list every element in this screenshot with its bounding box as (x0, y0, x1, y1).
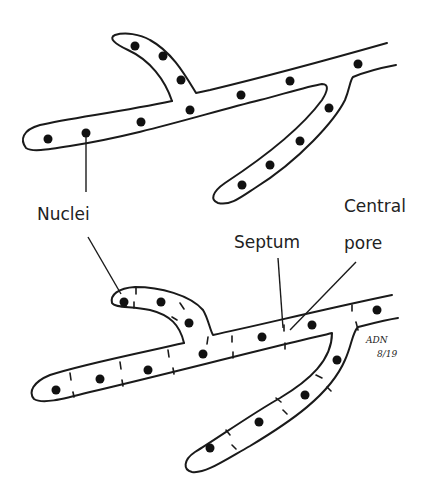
nuclei-label: Nuclei (37, 204, 90, 224)
pore-label: pore (344, 233, 382, 253)
central-pore-leader (290, 262, 356, 330)
septum-leader (278, 258, 283, 328)
central-label: Central (344, 196, 406, 216)
bottom-nuclei (52, 298, 382, 453)
septum-label: Septum (234, 232, 300, 252)
top-hypha-outline-left (23, 65, 396, 204)
bottom-hypha-outline-upper (112, 287, 392, 343)
signature: ADN 8/19 (365, 335, 397, 359)
nuclei-leader-bottom (88, 237, 121, 294)
bottom-hypha-outline-lower (32, 318, 398, 472)
coenocytic-hypha (23, 34, 396, 204)
septate-hypha (32, 237, 398, 472)
signature-initials: ADN (365, 335, 389, 345)
top-hypha-outline-upper (112, 34, 387, 101)
signature-date: 8/19 (377, 349, 397, 359)
